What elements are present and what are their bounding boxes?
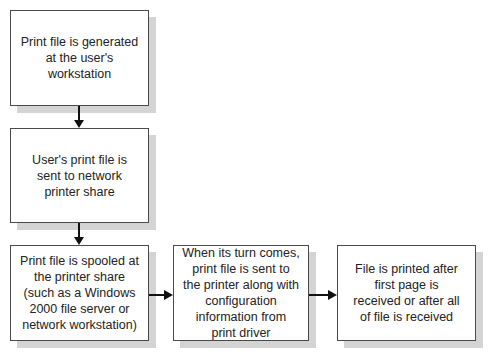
step-5-label: File is printed after first page is rece… xyxy=(350,261,463,325)
step-1-box: Print file is generated at the user's wo… xyxy=(10,10,149,106)
step-2-label: User's print file is sent to network pri… xyxy=(19,152,140,200)
arrow-right-icon xyxy=(149,288,175,302)
step-3-box: Print file is spooled at the printer sha… xyxy=(10,245,149,341)
step-4-label: When its turn comes, print file is sent … xyxy=(182,245,300,341)
arrow-down-icon xyxy=(72,106,86,130)
arrow-right-icon xyxy=(309,288,339,302)
arrow-down-icon xyxy=(72,223,86,247)
step-5-box: File is printed after first page is rece… xyxy=(337,245,476,341)
step-3-label: Print file is spooled at the printer sha… xyxy=(19,253,140,333)
step-4-box: When its turn comes, print file is sent … xyxy=(173,245,309,341)
step-2-box: User's print file is sent to network pri… xyxy=(10,128,149,223)
step-1-label: Print file is generated at the user's wo… xyxy=(19,34,140,82)
